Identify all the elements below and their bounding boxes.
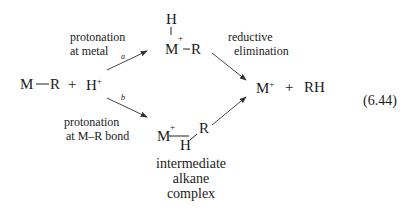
bottom-intermediate-hydrogen: H [180,138,191,153]
arrow-a-letter: a [121,53,125,61]
path-b-label: protonation at M–R bond [64,115,129,143]
arrow-alkane-complex-to-products [212,97,246,125]
reactant-proton: H+ [86,77,102,93]
product-alkane: RH [304,80,325,95]
bond-h-r [190,134,197,140]
path-a-label: protonation at metal [70,30,125,58]
product-metal-ion: M+ [256,80,274,96]
reactant-alkyl: R [50,77,60,92]
bottom-intermediate-charge: + [170,123,175,132]
reactant-plus: + [68,77,76,92]
reactant-metal: M [20,77,33,92]
bottom-intermediate-alkyl: R [199,121,209,136]
top-intermediate-alkyl: R [191,42,201,57]
top-intermediate-hydride: H [166,12,177,27]
top-intermediate-charge: + [178,34,183,43]
top-intermediate-metal: M [165,42,178,57]
bottom-intermediate-metal: M [157,129,170,144]
alkane-complex-caption: intermediate alkane complex [143,156,239,201]
equation-number: (6.44) [363,94,397,108]
arrow-b-letter: b [121,94,125,102]
product-plus: + [285,80,293,95]
reductive-elimination-label: reductive elimination [228,30,289,58]
